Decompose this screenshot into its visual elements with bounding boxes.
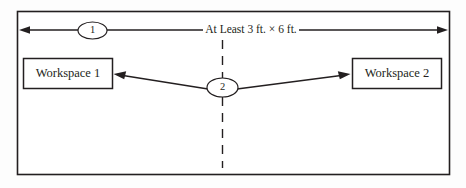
callout-label-2: 2 <box>220 81 225 92</box>
dimension-label: At Least 3 ft. × 6 ft. <box>205 23 297 35</box>
diagram-canvas: At Least 3 ft. × 6 ft. 1 2 Workspace 1 W… <box>0 0 466 188</box>
workspace-2-label: Workspace 2 <box>365 66 430 80</box>
callout-label-1: 1 <box>90 24 95 35</box>
workspace-1-label: Workspace 1 <box>36 66 101 80</box>
diagram-container: At Least 3 ft. × 6 ft. 1 2 Workspace 1 W… <box>0 0 466 188</box>
